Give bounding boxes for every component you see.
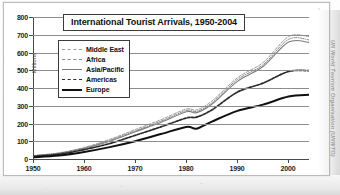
gridline-300 (33, 106, 309, 107)
x-axis-label-1990: 1990 (222, 165, 252, 172)
page-title: International Tourist Arrivals, 1950-200… (71, 17, 237, 27)
y-tick-400 (29, 88, 33, 89)
x-tick-1950 (33, 159, 34, 163)
x-axis-label-2000: 2000 (273, 165, 303, 172)
page-curl-shadow (318, 10, 340, 175)
x-tick-1980 (186, 159, 187, 163)
page-bottom-shadow (0, 173, 340, 195)
scanned-page: International Tourist Arrivals, 1950-200… (0, 0, 340, 195)
y-tick-300 (29, 106, 33, 107)
gridline-100 (33, 141, 309, 142)
y-axis-label-500: 500 (3, 67, 28, 74)
legend-swatch-europe (62, 85, 82, 94)
legend-item-africa: Africa (62, 54, 124, 64)
y-tick-100 (29, 141, 33, 142)
x-tick-1970 (135, 159, 136, 163)
y-axis-label-700: 700 (3, 32, 28, 39)
legend-label-europe: Europe (86, 86, 110, 93)
x-axis-line (33, 159, 309, 160)
x-axis-label-1960: 1960 (69, 165, 99, 172)
x-axis-label-1950: 1950 (18, 165, 48, 172)
y-axis-label-600: 600 (3, 50, 28, 57)
chart-title-box: International Tourist Arrivals, 1950-200… (63, 14, 245, 31)
legend-swatch-asia-pacific (62, 65, 82, 74)
legend-swatch-africa (62, 55, 82, 64)
x-tick-2000 (288, 159, 289, 163)
series-line-europe (33, 95, 309, 158)
legend-item-middle-east: Middle East (62, 44, 124, 54)
y-axis-label-0: 0 (3, 156, 28, 163)
x-tick-1990 (237, 159, 238, 163)
legend-swatch-middle-east (62, 45, 82, 54)
legend-label-asia-pacific: Asia/Pacific (86, 66, 124, 73)
legend-item-europe: Europe (62, 84, 124, 94)
legend-label-middle-east: Middle East (86, 46, 124, 53)
y-tick-800 (29, 17, 33, 18)
x-tick-1960 (84, 159, 85, 163)
y-tick-700 (29, 35, 33, 36)
chart-legend: Middle East Africa Asia/Pacific Americas… (58, 40, 130, 98)
legend-label-africa: Africa (86, 56, 105, 63)
x-axis-label-1970: 1970 (120, 165, 150, 172)
y-axis-label-400: 400 (3, 85, 28, 92)
y-axis-label-100: 100 (3, 138, 28, 145)
y-axis-label-800: 800 (3, 14, 28, 21)
x-axis-label-1980: 1980 (171, 165, 201, 172)
legend-item-americas: Americas (62, 74, 124, 84)
y-axis-title: Millions (31, 53, 37, 73)
gridline-200 (33, 124, 309, 125)
legend-item-asia-pacific: Asia/Pacific (62, 64, 124, 74)
gridline-700 (33, 35, 309, 36)
y-axis-label-300: 300 (3, 103, 28, 110)
y-axis-label-200: 200 (3, 121, 28, 128)
legend-label-americas: Americas (86, 76, 117, 83)
y-tick-200 (29, 124, 33, 125)
legend-swatch-americas (62, 75, 82, 84)
